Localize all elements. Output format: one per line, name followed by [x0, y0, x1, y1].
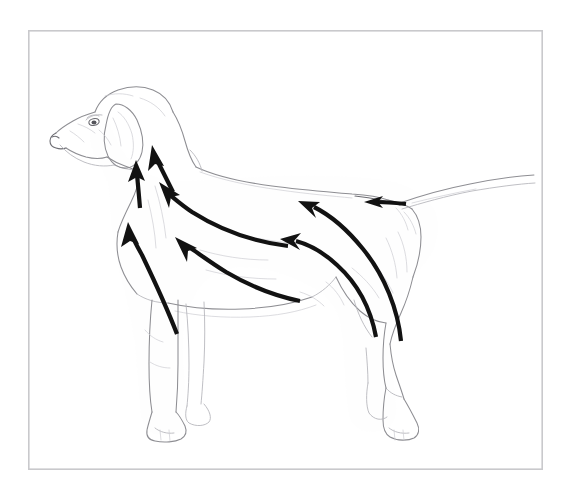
figure-canvas: Dog coat brushing direction diagram Dog …: [0, 0, 574, 504]
dog-coat-direction-illustration: Dog coat brushing direction diagram Dog …: [0, 0, 574, 504]
eye-pupil: [92, 120, 97, 124]
